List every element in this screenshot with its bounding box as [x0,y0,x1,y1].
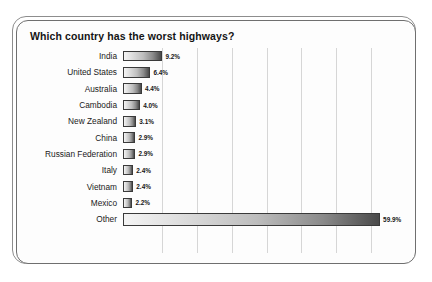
bar-category-label: China [28,133,123,143]
chart-title: Which country has the worst highways? [30,30,406,42]
bar-value-label: 2.9% [138,150,153,157]
bar-value-label: 2.9% [138,134,153,141]
bar-value-label: 2.2% [135,199,150,206]
bar-value-label: 2.4% [136,183,151,190]
bar-value-label: 9.2% [165,53,180,60]
bar[interactable] [123,132,135,143]
bar-row: Mexico2.2% [28,195,406,211]
bar-category-label: New Zealand [28,116,123,126]
bar-category-label: India [28,51,123,61]
bar[interactable] [123,149,135,160]
bar[interactable] [123,100,140,111]
bar-track: 59.9% [123,211,406,227]
bar-category-label: Vietnam [28,182,123,192]
bar-row: Cambodia4.0% [28,97,406,113]
bar-category-label: United States [28,67,123,77]
bar-track: 4.4% [123,81,406,97]
bar-category-label: Cambodia [28,100,123,110]
bar[interactable] [123,198,132,209]
bar-row: Italy2.4% [28,162,406,178]
bar-series: India9.2%United States6.4%Australia4.4%C… [28,48,406,227]
bar-row: Other59.9% [28,211,406,227]
bar-row: India9.2% [28,48,406,64]
bar[interactable] [123,213,380,226]
bar-track: 2.4% [123,178,406,194]
bar-row: Russian Federation2.9% [28,146,406,162]
bar-value-label: 4.0% [143,102,158,109]
bar-row: New Zealand3.1% [28,113,406,129]
bar-category-label: Russian Federation [28,149,123,159]
bar[interactable] [123,181,133,192]
bar-track: 6.4% [123,64,406,80]
bar-value-label: 3.1% [139,118,154,125]
bar-row: United States6.4% [28,64,406,80]
bar-track: 2.2% [123,195,406,211]
bar-track: 2.4% [123,162,406,178]
plot-area: India9.2%United States6.4%Australia4.4%C… [28,48,406,253]
bar-track: 2.9% [123,146,406,162]
bar-row: China2.9% [28,129,406,145]
bar-value-label: 2.4% [136,167,151,174]
bar-track: 9.2% [123,48,406,64]
bar-track: 3.1% [123,113,406,129]
bar-category-label: Australia [28,84,123,94]
bar[interactable] [123,165,133,176]
bar-category-label: Other [28,214,123,224]
bar-category-label: Italy [28,165,123,175]
bar-value-label: 6.4% [153,69,168,76]
bar-track: 2.9% [123,129,406,145]
bar[interactable] [123,51,162,62]
bar[interactable] [123,83,142,94]
bar[interactable] [123,116,136,127]
bar-value-label: 4.4% [145,85,160,92]
bar-chart-card: Which country has the worst highways? In… [16,20,416,264]
bar-row: Vietnam2.4% [28,178,406,194]
bar-row: Australia4.4% [28,81,406,97]
bar-track: 4.0% [123,97,406,113]
bar[interactable] [123,67,150,78]
bar-category-label: Mexico [28,198,123,208]
bar-value-label: 59.9% [383,216,401,223]
